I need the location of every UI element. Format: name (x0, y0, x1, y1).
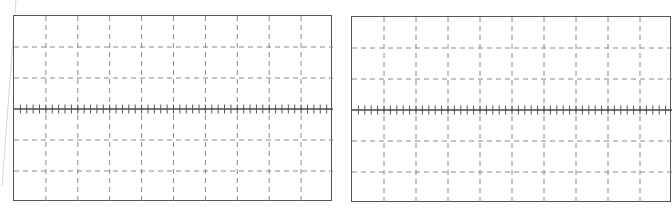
graticule-grid (352, 17, 672, 203)
oscilloscope-screen-right (351, 16, 671, 202)
graticule-grid (14, 16, 333, 202)
oscilloscope-screen-left (13, 15, 332, 201)
